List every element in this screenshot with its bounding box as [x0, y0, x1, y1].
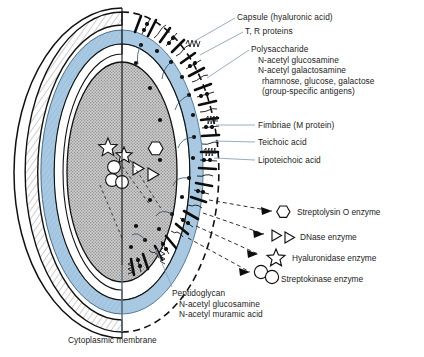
legend-item-streptokinase: Streptokinase enzyme [281, 274, 363, 285]
label-polysaccharide-block: Polysaccharide N-acetyl glucosamine N-ac… [251, 44, 375, 97]
hexagon-icon [277, 206, 290, 217]
label-cytoplasmic-membrane: Cytoplasmic membrane [68, 335, 157, 346]
diagram-canvas: Capsule (hyaluronic acid) T, R proteins … [0, 0, 424, 357]
leader-polysaccharide [207, 50, 249, 78]
leader-teichoic [215, 141, 255, 142]
label-peptidoglycan-line-2: N-acetyl muramic acid [172, 309, 263, 320]
legend-item-dnase: DNase enzyme [300, 232, 357, 243]
legend-item-hyaluronidase: Hyaluronidase enzyme [292, 253, 376, 264]
label-polysaccharide-title: Polysaccharide [251, 44, 375, 55]
label-teichoic-acid: Teichoic acid [258, 137, 307, 148]
label-fimbriae: Fimbriae (M protein) [258, 120, 334, 131]
circle-icon [108, 161, 121, 174]
circle-icon [265, 270, 278, 283]
star-icon [267, 249, 285, 266]
label-peptidoglycan-title: Peptidoglycan [172, 288, 263, 299]
label-tr-proteins: T, R proteins [245, 26, 293, 37]
label-capsule: Capsule (hyaluronic acid) [237, 12, 333, 23]
label-peptidoglycan-block: Peptidoglycan N-acetyl glucosamine N-ace… [172, 288, 263, 320]
label-polysaccharide-line-3: rhamnose, glucose, galactose [251, 76, 375, 87]
label-polysaccharide-line-4: (group-specific antigens) [251, 86, 375, 97]
label-peptidoglycan-line-1: N-acetyl glucosamine [172, 299, 263, 310]
label-polysaccharide-line-1: N-acetyl glucosamine [251, 55, 375, 66]
legend-item-streptolysin: Streptolysin O enzyme [297, 207, 380, 218]
legend-icons [254, 206, 294, 284]
leader-capsule [193, 18, 235, 42]
arrowhead-icon [239, 207, 272, 276]
triangle-icon [272, 230, 282, 241]
leader-tr-proteins [200, 32, 243, 55]
label-lipoteichoic-acid: Lipoteichoic acid [258, 155, 321, 166]
hexagon-icon [148, 142, 163, 155]
label-polysaccharide-line-2: N-acetyl galactosamine [251, 65, 375, 76]
leader-lipoteichoic [214, 158, 255, 160]
triangle-icon [285, 232, 295, 243]
